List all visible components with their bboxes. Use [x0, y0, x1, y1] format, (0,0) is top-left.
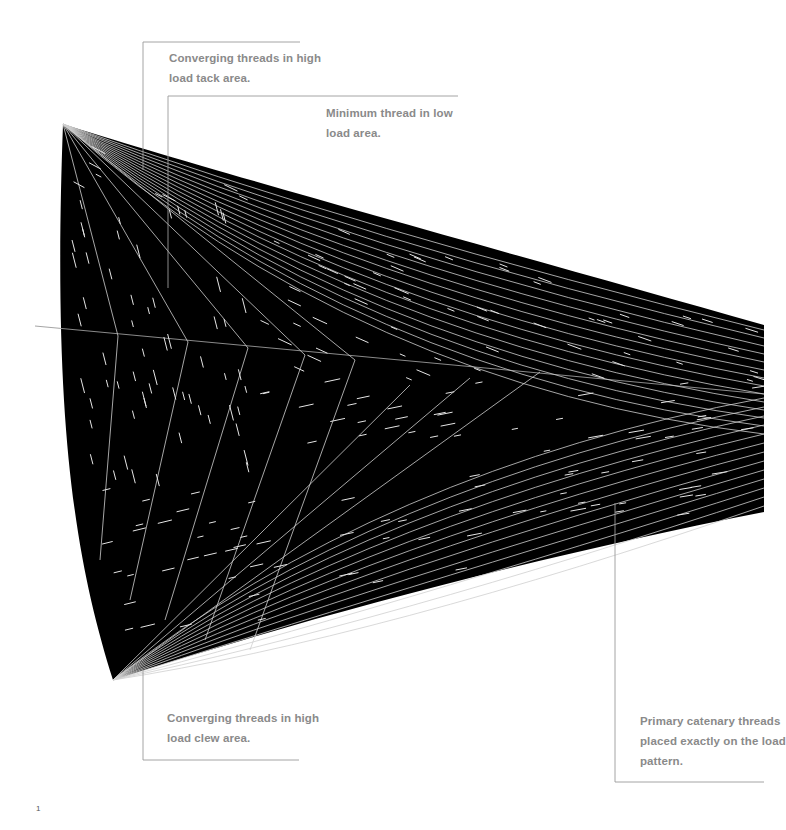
- callout-clew-line1: Converging threads in high: [167, 708, 319, 728]
- callout-tack-line2: load tack area.: [169, 68, 321, 88]
- callout-catenary-line1: Primary catenary threads: [640, 711, 786, 731]
- page-number: 1: [36, 804, 40, 813]
- callout-tack: Converging threads in high load tack are…: [169, 48, 321, 88]
- callout-low-load-line2: load area.: [326, 123, 453, 143]
- callout-catenary: Primary catenary threads placed exactly …: [640, 711, 786, 771]
- callout-low-load: Minimum thread in low load area.: [326, 103, 453, 143]
- callout-clew: Converging threads in high load clew are…: [167, 708, 319, 748]
- callout-low-load-line1: Minimum thread in low: [326, 103, 453, 123]
- callout-tack-line1: Converging threads in high: [169, 48, 321, 68]
- callout-catenary-line3: pattern.: [640, 751, 786, 771]
- callout-catenary-line2: placed exactly on the load: [640, 731, 786, 751]
- callout-clew-line2: load clew area.: [167, 728, 319, 748]
